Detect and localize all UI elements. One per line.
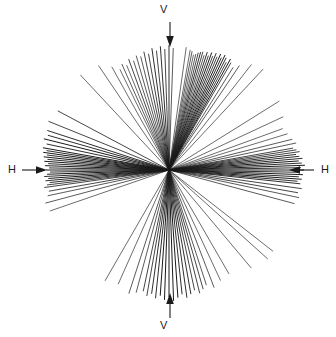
axis-label-h-right: H (321, 164, 329, 175)
axis-label-v-top: V (160, 4, 167, 15)
arrow-right-icon (22, 166, 47, 174)
ray-group (43, 45, 305, 301)
ray-bundle-canvas (0, 0, 336, 337)
ray-segment (99, 66, 169, 170)
arrow-down-icon (166, 22, 174, 47)
ray-segment (136, 170, 169, 293)
ray-segment (169, 170, 203, 289)
arrow-left-icon (289, 166, 314, 174)
axis-label-v-bottom: V (160, 320, 167, 331)
arrow-up-icon (166, 293, 174, 318)
radial-fan-figure: V V H H (0, 0, 336, 337)
axis-label-h-left: H (8, 164, 16, 175)
